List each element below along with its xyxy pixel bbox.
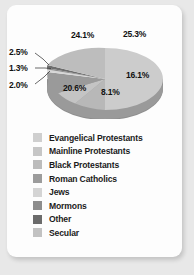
- chart-card: 25.3% 24.1% 16.1% 8.1% 20.6% 2.5% 1.3% 2…: [7, 5, 182, 257]
- chart-legend: Evangelical Protestants Mainline Protest…: [33, 131, 179, 240]
- legend-swatch-icon: [33, 174, 42, 183]
- legend-swatch-icon: [33, 160, 42, 169]
- legend-label: Mormons: [49, 201, 87, 211]
- legend-swatch-icon: [33, 228, 42, 237]
- legend-label: Roman Catholics: [49, 174, 117, 184]
- pie-chart-svg: [7, 5, 182, 127]
- legend-swatch-icon: [33, 188, 42, 197]
- legend-item-evangelical-protestants: Evangelical Protestants: [33, 131, 179, 145]
- pie-callout-label-mormons: 1.3%: [9, 63, 28, 73]
- legend-item-jews: Jews: [33, 185, 179, 199]
- legend-label: Secular: [49, 228, 79, 238]
- pie-value-label-black-protestants: 8.1%: [101, 87, 120, 97]
- figure-caption: [0, 262, 194, 272]
- pie-callout-label-jews: 2.0%: [9, 80, 28, 90]
- pie-callout-label-other: 2.5%: [9, 47, 28, 57]
- legend-label: Black Protestants: [49, 160, 119, 170]
- pie-value-label-roman-catholics: 20.6%: [63, 83, 86, 93]
- legend-label: Other: [49, 214, 71, 224]
- legend-item-mainline-protestants: Mainline Protestants: [33, 145, 179, 159]
- legend-item-mormons: Mormons: [33, 199, 179, 213]
- legend-swatch-icon: [33, 147, 42, 156]
- legend-swatch-icon: [33, 201, 42, 210]
- legend-item-roman-catholics: Roman Catholics: [33, 172, 179, 186]
- legend-label: Evangelical Protestants: [49, 133, 143, 143]
- legend-item-black-protestants: Black Protestants: [33, 158, 179, 172]
- legend-label: Mainline Protestants: [49, 146, 130, 156]
- legend-item-secular: Secular: [33, 226, 179, 240]
- pie-value-label-mainline-protestants: 16.1%: [126, 70, 149, 80]
- pie-chart: 25.3% 24.1% 16.1% 8.1% 20.6% 2.5% 1.3% 2…: [7, 5, 182, 127]
- pie-value-label-evangelical-protestants: 25.3%: [123, 29, 146, 39]
- legend-swatch-icon: [33, 215, 42, 224]
- page-root: 25.3% 24.1% 16.1% 8.1% 20.6% 2.5% 1.3% 2…: [0, 0, 194, 275]
- legend-swatch-icon: [33, 133, 42, 142]
- legend-label: Jews: [49, 187, 69, 197]
- legend-item-other: Other: [33, 213, 179, 227]
- pie-value-label-secular: 24.1%: [71, 30, 94, 40]
